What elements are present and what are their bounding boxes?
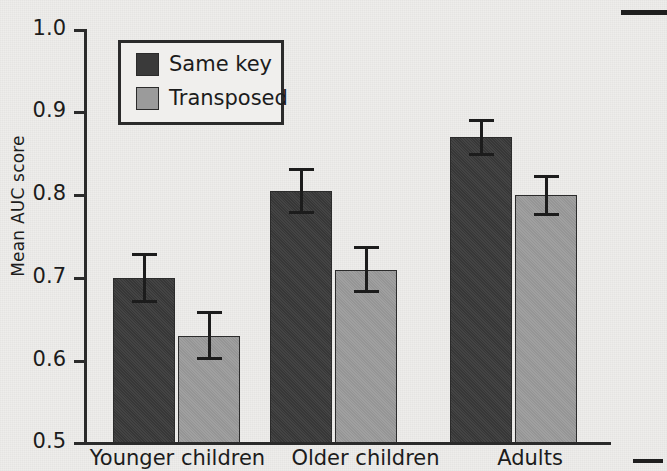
error-bar-lower-cap-younger-children-transposed (197, 357, 222, 360)
error-bar-upper-cap-younger-children-same-key (132, 253, 157, 256)
y-axis-tick-label-0.6: 0.6 (6, 349, 66, 370)
bar-younger-children-same-key (113, 278, 175, 443)
legend-box: Same key Transposed (118, 40, 284, 125)
error-bar-stem-adults-same-key (480, 119, 483, 155)
legend-label-same-key: Same key (169, 52, 272, 76)
page-edge-mark-top-right (621, 10, 667, 15)
error-bar-lower-cap-adults-same-key (469, 153, 494, 156)
error-bar-upper-cap-adults-same-key (469, 119, 494, 122)
error-bar-stem-younger-children-transposed (208, 311, 211, 361)
error-bar-upper-cap-adults-transposed (534, 175, 559, 178)
error-bar-stem-younger-children-same-key (143, 253, 146, 303)
bar-older-children-transposed (335, 270, 397, 443)
error-bar-lower-cap-older-children-transposed (354, 290, 379, 293)
page-edge-mark-bottom-right (633, 459, 663, 463)
error-bar-stem-older-children-same-key (300, 168, 303, 214)
legend-swatch-transposed-icon (136, 87, 159, 110)
y-axis-tick-label-1.0: 1.0 (6, 18, 66, 39)
error-bar-stem-older-children-transposed (365, 246, 368, 292)
error-bar-stem-adults-transposed (545, 175, 548, 216)
error-bar-lower-cap-younger-children-same-key (132, 300, 157, 303)
error-bar-lower-cap-older-children-same-key (289, 211, 314, 214)
legend-label-transposed: Transposed (169, 86, 288, 110)
figure-canvas: 1.0 0.9 0.8 0.7 0.6 0.5 Mean AUC score Y… (0, 0, 667, 471)
bar-older-children-same-key (270, 191, 332, 443)
legend-entry-same-key: Same key (136, 51, 272, 77)
x-axis-category-label-older-children: Older children (278, 447, 453, 469)
legend-entry-transposed: Transposed (136, 85, 288, 111)
legend-swatch-same-key-icon (136, 53, 159, 76)
error-bar-lower-cap-adults-transposed (534, 213, 559, 216)
bar-adults-same-key (450, 137, 512, 443)
x-axis-category-label-younger-children: Younger children (85, 447, 270, 469)
x-axis-category-label-adults: Adults (455, 447, 605, 469)
error-bar-upper-cap-younger-children-transposed (197, 311, 222, 314)
error-bar-upper-cap-older-children-same-key (289, 168, 314, 171)
y-axis-title: Mean AUC score (8, 106, 28, 306)
y-axis-tick-label-0.5: 0.5 (6, 431, 66, 452)
error-bar-upper-cap-older-children-transposed (354, 246, 379, 249)
bar-adults-transposed (515, 195, 577, 443)
